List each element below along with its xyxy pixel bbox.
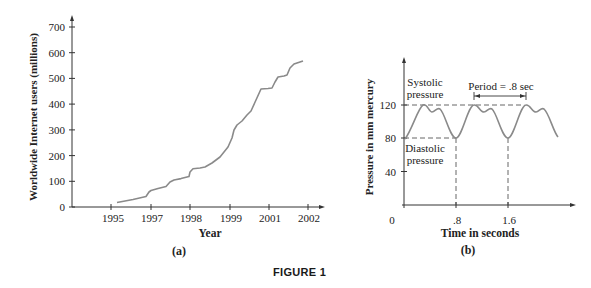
chart-a-y-tick-label: 300 bbox=[49, 124, 66, 136]
chart-b-y-axis-arrow-icon bbox=[402, 57, 406, 63]
chart-a-x-axis-arrow-icon bbox=[319, 205, 325, 209]
chart-a-y-tick-label: 500 bbox=[49, 72, 66, 84]
chart-b-y-axis-label: Pressure in mm mercury bbox=[363, 78, 375, 195]
systolic-label: pressure bbox=[407, 88, 444, 100]
chart-b-panel-label: (b) bbox=[461, 243, 476, 257]
figure-caption: FIGURE 1 bbox=[273, 266, 326, 278]
chart-a-y-tick-label: 600 bbox=[49, 47, 66, 59]
chart-a-y-tick-label: 200 bbox=[49, 150, 66, 162]
chart-a-x-tick-label: 1999 bbox=[220, 212, 243, 224]
chart-a-panel-label: (a) bbox=[172, 244, 186, 258]
chart-a-y-axis-arrow-icon bbox=[70, 15, 74, 21]
diastolic-label: Diastolic bbox=[405, 142, 445, 154]
chart-a-y-tick-label: 0 bbox=[60, 201, 66, 213]
figure-canvas: 0 100 200 300 400 500 600 700 1995 1997 … bbox=[0, 0, 591, 288]
period-arrow-right-icon bbox=[520, 94, 525, 98]
diastolic-label: pressure bbox=[407, 154, 444, 166]
chart-b-x-tick-label: 0 bbox=[389, 214, 395, 226]
chart-b-waveform bbox=[405, 105, 558, 139]
systolic-label: Systolic bbox=[407, 76, 443, 88]
chart-a-data-line bbox=[117, 61, 303, 203]
chart-a-x-tick-label: 2001 bbox=[259, 212, 281, 224]
chart-a-x-tick-label: 1998 bbox=[180, 212, 203, 224]
chart-b-x-axis-arrow-icon bbox=[570, 203, 576, 207]
period-bracket bbox=[474, 92, 526, 100]
chart-b-x-tick-label: 1.6 bbox=[502, 214, 516, 226]
chart-b-y-tick-label: 40 bbox=[385, 166, 397, 178]
period-label: Period = .8 sec bbox=[468, 80, 534, 92]
chart-a-y-tick-label: 400 bbox=[49, 98, 66, 110]
chart-b-x-axis-label: Time in seconds bbox=[441, 227, 520, 239]
chart-b-y-tick-label: 120 bbox=[380, 99, 397, 111]
chart-a-x-tick-label: 1995 bbox=[102, 212, 125, 224]
chart-a-x-axis-label: Year bbox=[199, 227, 222, 239]
chart-a-x-tick-label: 2002 bbox=[298, 212, 320, 224]
chart-a-y-axis-label: Worldwide Internet users (millions) bbox=[27, 33, 40, 201]
chart-a-x-tick-label: 1997 bbox=[141, 212, 164, 224]
period-arrow-left-icon bbox=[475, 94, 480, 98]
chart-b-y-tick-label: 80 bbox=[385, 132, 397, 144]
chart-a: 0 100 200 300 400 500 600 700 1995 1997 … bbox=[27, 15, 325, 258]
chart-a-y-tick-label: 100 bbox=[49, 175, 66, 187]
chart-b-x-tick-label: .8 bbox=[453, 214, 462, 226]
chart-b: 40 80 120 0 .8 1.6 Time in seconds Press… bbox=[363, 57, 576, 257]
chart-a-y-tick-label: 700 bbox=[49, 21, 66, 33]
